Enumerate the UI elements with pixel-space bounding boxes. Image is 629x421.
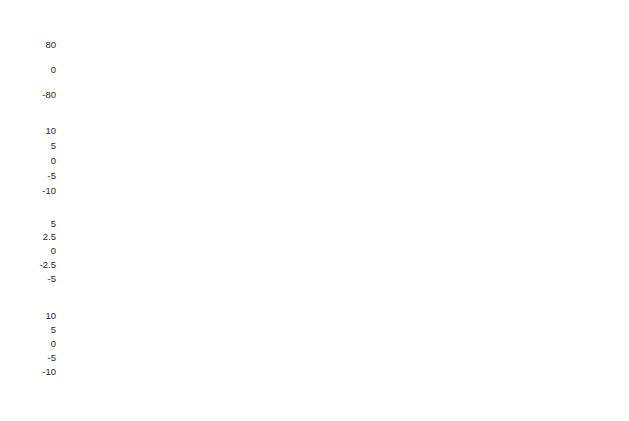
ytick-gaps-3: 5	[22, 324, 56, 335]
ytick-raw-1: 0	[22, 64, 56, 75]
ytick-raw-2: 80	[22, 39, 56, 50]
ytick-unfiltered-3: 5	[22, 140, 56, 151]
ytick-cme-0: -5	[22, 273, 56, 284]
ytick-raw-0: -80	[22, 89, 56, 100]
ytick-gaps-4: 10	[22, 310, 56, 321]
ytick-unfiltered-0: -10	[22, 185, 56, 196]
ytick-cme-1: -2.5	[22, 259, 56, 270]
ytick-cme-4: 5	[22, 218, 56, 229]
ytick-unfiltered-4: 10	[22, 125, 56, 136]
ytick-unfiltered-1: -5	[22, 170, 56, 181]
ytick-gaps-0: -10	[22, 366, 56, 377]
ytick-cme-3: 2.5	[22, 231, 56, 242]
ytick-gaps-2: 0	[22, 338, 56, 349]
ytick-gaps-1: -5	[22, 352, 56, 363]
ytick-cme-2: 0	[22, 245, 56, 256]
ytick-unfiltered-2: 0	[22, 155, 56, 166]
figure-4-container: -80080-10-50510-5-2.502.55-10-50510	[0, 0, 629, 421]
